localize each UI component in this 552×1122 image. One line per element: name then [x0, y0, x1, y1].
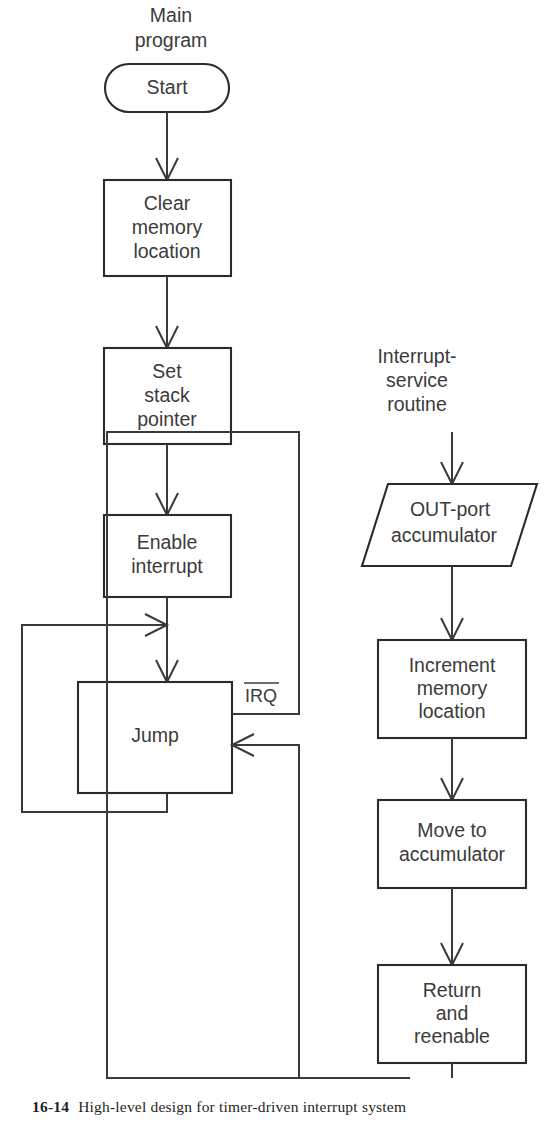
out-port-line1: OUT-port [410, 498, 491, 520]
node-return-reenable: Return and reenable [378, 965, 526, 1063]
figure-caption-band: 16-14High-level design for timer-driven … [0, 1098, 552, 1122]
figure-caption-text: High-level design for timer-driven inter… [78, 1098, 406, 1115]
main-program-header-line2: program [135, 29, 208, 51]
isr-header-line3: routine [387, 393, 447, 415]
node-jump: Jump [78, 682, 232, 793]
connector-isr-return-to-jump [232, 734, 299, 1078]
connector-increment-to-move [441, 738, 463, 800]
connector-enable-to-jump [156, 597, 178, 682]
increment-memory-line2: memory [417, 677, 488, 699]
connector-isr-entry-to-outport [441, 432, 463, 484]
connector-set-stack-to-enable [156, 444, 178, 515]
set-stack-line2: stack [144, 384, 190, 406]
node-set-stack-pointer: Set stack pointer [104, 348, 231, 444]
move-to-acc-line1: Move to [417, 819, 487, 841]
main-program-header-line1: Main [150, 4, 192, 26]
node-start: Start [105, 64, 229, 112]
connector-start-to-clear [156, 112, 178, 180]
node-move-to-accumulator: Move to accumulator [378, 800, 526, 888]
enable-interrupt-line2: interrupt [131, 555, 203, 577]
set-stack-line1: Set [152, 360, 182, 382]
clear-memory-line1: Clear [144, 192, 191, 214]
irq-label-text: IRQ [245, 686, 277, 706]
node-increment-memory: Increment memory location [378, 640, 526, 738]
figure-caption-number: 16-14 [32, 1098, 69, 1115]
node-enable-interrupt: Enable interrupt [104, 515, 231, 597]
connector-move-to-return [441, 888, 463, 965]
clear-memory-line2: memory [132, 216, 203, 238]
node-out-port-accumulator: OUT-port accumulator [362, 484, 537, 566]
move-to-acc-line2: accumulator [399, 843, 506, 865]
start-label: Start [146, 76, 188, 98]
increment-memory-line3: location [418, 700, 485, 722]
isr-header-line2: service [386, 369, 448, 391]
main-program-header: Main program [135, 4, 208, 51]
set-stack-line3: pointer [137, 408, 197, 430]
out-port-line2: accumulator [391, 524, 498, 546]
flowchart-canvas: Main program Start Clear memory location [0, 0, 552, 1122]
clear-memory-line3: location [133, 240, 200, 262]
signal-irq-label: IRQ [244, 683, 279, 706]
flowchart-figure: Main program Start Clear memory location [0, 0, 552, 1122]
isr-header: Interrupt- service routine [377, 345, 456, 415]
connector-clear-to-set-stack [156, 276, 178, 348]
return-reenable-line3: reenable [414, 1025, 490, 1047]
isr-header-line1: Interrupt- [377, 345, 456, 367]
figure-caption: 16-14High-level design for timer-driven … [32, 1098, 532, 1116]
return-reenable-line2: and [436, 1002, 469, 1024]
enable-interrupt-line1: Enable [137, 531, 198, 553]
node-clear-memory: Clear memory location [104, 180, 231, 276]
jump-label: Jump [131, 724, 179, 746]
increment-memory-line1: Increment [409, 654, 496, 676]
return-reenable-line1: Return [423, 979, 482, 1001]
connector-outport-to-increment [441, 566, 463, 640]
